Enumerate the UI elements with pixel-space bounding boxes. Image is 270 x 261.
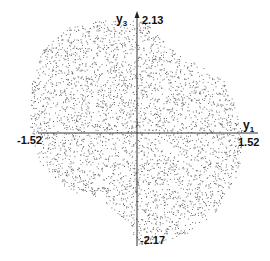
x-max-label: 1.52: [238, 136, 259, 148]
y-axis-label: y3: [116, 12, 128, 28]
y-min-label: -2.17: [140, 234, 165, 246]
y-axis-arrow-icon: [135, 11, 140, 18]
y-max-label: 2.13: [142, 14, 163, 26]
scatter-plot: y3 2.13 -2.17 -1.52 1.52 y1: [0, 0, 270, 261]
x-axis-label: y1: [243, 118, 255, 134]
x-min-label: -1.52: [17, 134, 42, 146]
